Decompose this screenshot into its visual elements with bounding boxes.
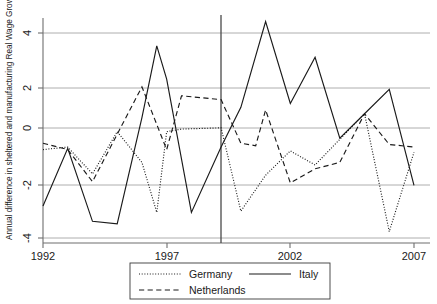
- line-chart: Annual difference in sheltered and manuf…: [0, 0, 437, 304]
- x-tick-label-1997: 1997: [155, 250, 179, 262]
- x-tick-label-2007: 2007: [402, 250, 426, 262]
- y-axis-title: Annual difference in sheltered and manuf…: [5, 0, 14, 240]
- y-tick-label-neg2: -2: [21, 180, 33, 190]
- y-tick-label-neg4: -4: [21, 233, 33, 243]
- y-tick-label-0: 0: [21, 125, 33, 131]
- legend: Germany Italy Netherlands: [130, 263, 330, 299]
- series-line-italy: [43, 21, 414, 223]
- x-tick-label-2002: 2002: [278, 250, 302, 262]
- legend-label-germany: Germany: [189, 268, 233, 280]
- y-axis: 4 2 0 -2 -4: [21, 18, 43, 243]
- legend-label-netherlands: Netherlands: [189, 284, 246, 296]
- series-group: [43, 21, 414, 231]
- series-line-netherlands: [43, 87, 414, 183]
- legend-label-italy: Italy: [299, 268, 319, 280]
- gridlines: [43, 33, 430, 238]
- chart-container: Annual difference in sheltered and manuf…: [0, 0, 437, 304]
- y-tick-label-4: 4: [21, 30, 33, 36]
- x-axis: 1992 1997 2002 2007: [31, 243, 430, 262]
- x-tick-label-1992: 1992: [31, 250, 55, 262]
- y-tick-label-2: 2: [21, 85, 33, 91]
